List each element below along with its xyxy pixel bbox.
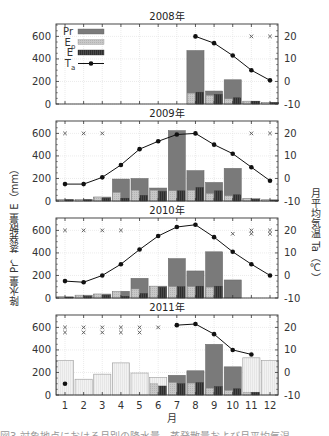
- x-tick-label: 1: [62, 400, 68, 411]
- figure-caption: 図3 対象地点における月別の降水量、蒸発散量および月平均気温: [0, 428, 329, 436]
- x-tick-label: 11: [245, 400, 258, 411]
- y-right-tick-label: -10: [284, 99, 300, 110]
- bar-pr-estimated: [56, 361, 73, 395]
- y-axis-left-label: 降水量 Pr，蒸発散量 E（mm）: [2, 150, 26, 320]
- y-tick-label: 0: [45, 293, 51, 304]
- bar-e: [159, 191, 167, 201]
- x-tick-label: 5: [136, 400, 142, 411]
- chart-panel-2010年: 2010年0200400600-1001020: [32, 204, 300, 304]
- missing-marker: [100, 326, 104, 330]
- ta-point: [81, 280, 86, 285]
- bar-e: [177, 384, 185, 395]
- ta-point: [119, 163, 124, 168]
- x-tick-label: 3: [99, 400, 105, 411]
- y-right-tick-label: -10: [284, 196, 300, 207]
- y-right-tick-label: 0: [284, 270, 290, 281]
- bar-pr-estimated: [112, 363, 129, 395]
- ta-point: [156, 234, 161, 239]
- bar-ep: [169, 191, 177, 201]
- y-right-tick-label: 20: [284, 31, 297, 42]
- y-right-tick-label: 0: [284, 76, 290, 87]
- bar-ep: [113, 291, 121, 298]
- y-right-tick-label: 10: [284, 344, 297, 355]
- y-tick-label: 600: [32, 322, 51, 333]
- y-right-tick-label: 20: [284, 322, 297, 333]
- ta-point: [230, 53, 235, 58]
- bar-ep: [225, 196, 233, 201]
- ta-point: [249, 68, 254, 73]
- y-tick-label: 400: [32, 150, 51, 161]
- chart-panel-2011年: 2011年0200400600-1001020123456789101112: [32, 301, 300, 411]
- chart-panel-2008年: 2008年0200400600-1001020PrEpETa: [32, 10, 300, 110]
- ta-point: [268, 78, 273, 83]
- y-tick-label: 400: [32, 344, 51, 355]
- bar-pr-estimated: [261, 361, 278, 395]
- bar-e: [140, 293, 148, 298]
- ta-point: [175, 323, 180, 328]
- bar-e: [215, 94, 223, 104]
- bar-ep: [187, 287, 195, 298]
- y-tick-label: 0: [45, 196, 51, 207]
- bar-ep: [131, 190, 139, 201]
- ta-point: [230, 250, 235, 255]
- bar-e: [215, 286, 223, 298]
- legend-label-Pr: Pr: [63, 26, 74, 37]
- y-right-tick-label: 10: [284, 53, 297, 64]
- bar-ep: [206, 96, 214, 104]
- y-tick-label: 200: [32, 367, 51, 378]
- y-tick-label: 600: [32, 128, 51, 139]
- ta-point: [212, 332, 217, 337]
- y-tick-label: 600: [32, 31, 51, 42]
- ta-point: [175, 132, 180, 137]
- bar-pr: [168, 131, 185, 201]
- ta-point: [249, 352, 254, 357]
- bar-e: [215, 387, 223, 395]
- bar-ep: [94, 197, 102, 201]
- x-tick-label: 2: [80, 400, 86, 411]
- panel-title: 2008年: [149, 10, 184, 22]
- ta-point: [156, 139, 161, 144]
- ta-point: [212, 235, 217, 240]
- ta-point: [137, 147, 142, 152]
- bar-ep: [169, 287, 177, 298]
- bar-e: [140, 195, 148, 201]
- y-right-tick-label: 10: [284, 247, 297, 258]
- x-axis-label: 月: [160, 410, 184, 425]
- legend-label-E: E: [67, 47, 73, 58]
- bar-e: [233, 195, 241, 201]
- bar-ep: [187, 93, 195, 104]
- ta-point: [193, 131, 198, 136]
- bar-e: [233, 389, 241, 395]
- y-axis-right-label: 月平均気温 Ta（℃）: [303, 150, 327, 320]
- y-tick-label: 0: [45, 390, 51, 401]
- ta-point: [63, 381, 68, 386]
- ta-point: [193, 34, 198, 39]
- bar-e: [177, 287, 185, 298]
- ta-point: [100, 175, 105, 180]
- panel-title: 2011年: [149, 301, 184, 313]
- y-right-tick-label: 0: [284, 173, 290, 184]
- bar-ep: [225, 99, 233, 104]
- y-tick-label: 200: [32, 270, 51, 281]
- bar-ep: [150, 190, 158, 201]
- bar-pr-estimated: [131, 373, 148, 395]
- y-axis-right-label-text: 月平均気温 Ta（℃）: [308, 188, 323, 283]
- x-tick-label: 10: [226, 400, 239, 411]
- y-tick-label: 600: [32, 225, 51, 236]
- y-tick-label: 200: [32, 76, 51, 87]
- ta-point: [119, 262, 124, 267]
- y-tick-label: 200: [32, 173, 51, 184]
- ta-point: [249, 262, 254, 267]
- ta-point: [268, 273, 273, 278]
- climate-chart: 2008年0200400600-1001020PrEpETa2009年02004…: [0, 0, 329, 436]
- bar-e: [196, 286, 204, 298]
- y-tick-label: 0: [45, 99, 51, 110]
- bar-ep: [206, 194, 214, 201]
- bar-e: [159, 287, 167, 298]
- x-tick-label: 4: [118, 400, 124, 411]
- bar-e: [196, 187, 204, 201]
- ta-point: [268, 178, 273, 183]
- ta-point: [249, 165, 254, 170]
- ta-point: [137, 247, 142, 252]
- bar-e: [177, 191, 185, 201]
